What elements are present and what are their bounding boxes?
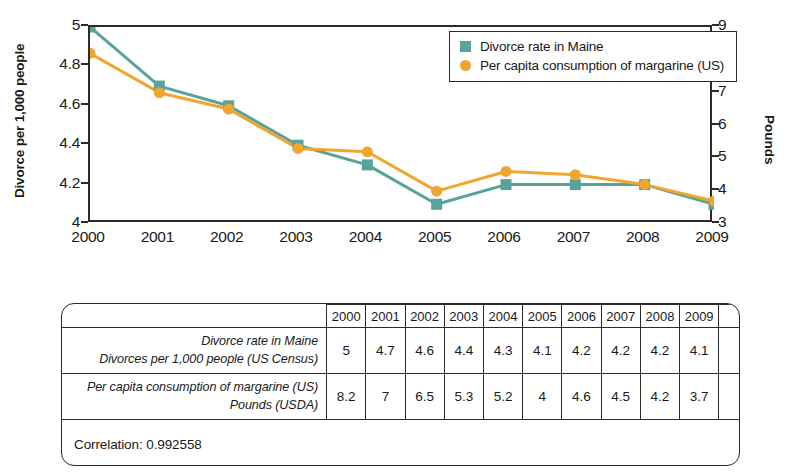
data-point-marker — [501, 179, 512, 190]
secondary-y-axis-tick-label: 7 — [718, 82, 748, 100]
table-header-row: 2000200120022003200420052006200720082009 — [62, 305, 739, 328]
table-column-header: 2006 — [562, 305, 601, 328]
y-axis-tick-label: 4.4 — [50, 134, 80, 152]
legend-label-divorce: Divorce rate in Maine — [480, 39, 603, 54]
secondary-y-axis-tick-mark — [712, 24, 719, 26]
data-point-marker — [501, 166, 512, 177]
data-point-marker — [223, 104, 234, 115]
table-row-label-line2: Divorces per 1,000 people (US Census) — [68, 351, 318, 368]
data-point-marker — [154, 87, 165, 98]
table-cell-value: 4.1 — [680, 328, 719, 374]
secondary-y-axis-tick-label: 5 — [718, 147, 748, 165]
table-cell-value: 4.6 — [562, 374, 601, 420]
y-axis-tick-mark — [81, 63, 88, 65]
x-axis-tick-label: 2003 — [279, 228, 312, 246]
table-cell-value: 5.3 — [444, 374, 483, 420]
x-axis-tick-label: 2005 — [418, 228, 451, 246]
data-point-marker — [570, 179, 581, 190]
x-axis-tick-label: 2008 — [626, 228, 659, 246]
data-point-marker — [293, 143, 304, 154]
secondary-y-axis-title: Pounds — [758, 95, 780, 185]
y-axis-tick-label: 4.2 — [50, 174, 80, 192]
data-point-marker — [431, 199, 442, 210]
circle-marker-icon — [460, 60, 471, 71]
legend-item-divorce: Divorce rate in Maine — [460, 37, 724, 56]
chart-legend: Divorce rate in Maine Per capita consump… — [449, 31, 737, 82]
table-column-header: 2000 — [327, 305, 366, 328]
y-axis-tick-label: 4.8 — [50, 55, 80, 73]
y-axis-tick-mark — [81, 142, 88, 144]
table-cell-value: 4.2 — [640, 328, 679, 374]
table-cell-value: 5.2 — [483, 374, 522, 420]
table-column-header: 2002 — [405, 305, 444, 328]
secondary-y-axis-tick-label: 6 — [718, 115, 748, 133]
data-point-marker — [431, 186, 442, 197]
data-point-marker — [639, 179, 650, 190]
data-table-card: 2000200120022003200420052006200720082009… — [61, 303, 740, 466]
data-point-marker — [90, 27, 96, 33]
table-row-label: Divorce rate in MaineDivorces per 1,000 … — [62, 328, 327, 374]
y-axis-tick-mark — [81, 221, 88, 223]
chart-container: Divorce per 1,000 people Pounds 44.24.44… — [0, 0, 792, 262]
table-column-header: 2005 — [523, 305, 562, 328]
y-axis-tick-mark — [81, 24, 88, 26]
data-point-marker — [570, 169, 581, 180]
table-endcap-cell — [719, 305, 739, 328]
table-cell-value: 3.7 — [680, 374, 719, 420]
table-column-header: 2008 — [640, 305, 679, 328]
x-axis-tick-label: 2000 — [71, 228, 104, 246]
table-cell-value: 4 — [523, 374, 562, 420]
table-row-label-line1: Per capita consumption of margarine (US) — [68, 379, 318, 396]
table-row-label-line2: Pounds (USDA) — [68, 397, 318, 414]
table-cell-value: 4.5 — [601, 374, 640, 420]
legend-item-margarine: Per capita consumption of margarine (US) — [460, 56, 724, 75]
data-point-marker — [362, 146, 373, 157]
y-axis-tick-label: 4.6 — [50, 95, 80, 113]
table-cell-value: 4.2 — [640, 374, 679, 420]
x-axis-tick-label: 2006 — [487, 228, 520, 246]
square-marker-icon — [460, 41, 471, 52]
table-row: Per capita consumption of margarine (US)… — [62, 374, 739, 420]
table-cell-value: 4.6 — [405, 328, 444, 374]
legend-label-margarine: Per capita consumption of margarine (US) — [480, 58, 724, 73]
x-axis-tick-label: 2009 — [695, 228, 728, 246]
x-axis-tick-label: 2007 — [557, 228, 590, 246]
x-axis-tick-label: 2001 — [141, 228, 174, 246]
table-endcap-cell — [719, 328, 739, 374]
x-axis-tick-label: 2002 — [210, 228, 243, 246]
table-cell-value: 4.4 — [444, 328, 483, 374]
table-cell-value: 8.2 — [327, 374, 366, 420]
table-cell-value: 7 — [366, 374, 405, 420]
correlation-text: Correlation: 0.992558 — [62, 424, 739, 465]
table-cell-value: 4.7 — [366, 328, 405, 374]
table-cell-value: 4.1 — [523, 328, 562, 374]
data-table: 2000200120022003200420052006200720082009… — [62, 304, 739, 420]
data-point-marker — [362, 159, 373, 170]
table-column-header: 2003 — [444, 305, 483, 328]
table-corner-cell — [62, 305, 327, 328]
table-endcap-cell — [719, 374, 739, 420]
y-axis-tick-mark — [81, 103, 88, 105]
y-axis-title: Divorce per 1,000 people — [8, 18, 30, 223]
table-column-header: 2001 — [366, 305, 405, 328]
x-axis-tick-label: 2004 — [349, 228, 382, 246]
y-axis-tick-label: 5 — [50, 16, 80, 34]
table-column-header: 2007 — [601, 305, 640, 328]
y-axis-tick-mark — [81, 182, 88, 184]
table-row-label: Per capita consumption of margarine (US)… — [62, 374, 327, 420]
table-cell-value: 6.5 — [405, 374, 444, 420]
table-row: Divorce rate in MaineDivorces per 1,000 … — [62, 328, 739, 374]
table-column-header: 2009 — [680, 305, 719, 328]
table-cell-value: 4.2 — [562, 328, 601, 374]
table-cell-value: 4.3 — [483, 328, 522, 374]
table-cell-value: 5 — [327, 328, 366, 374]
table-cell-value: 4.2 — [601, 328, 640, 374]
table-row-label-line1: Divorce rate in Maine — [68, 333, 318, 350]
secondary-y-axis-tick-label: 4 — [718, 180, 748, 198]
table-column-header: 2004 — [483, 305, 522, 328]
